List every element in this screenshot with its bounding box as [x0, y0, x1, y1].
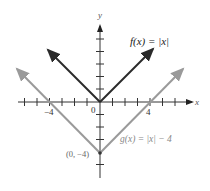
- tick-label-pos4: 4: [146, 107, 151, 117]
- tick-label-neg4: −4: [44, 107, 54, 117]
- vertex-point: [98, 151, 102, 155]
- f-label: f(x) = |x|: [130, 35, 169, 48]
- origin-label: 0: [91, 105, 96, 115]
- x-axis: [18, 98, 192, 106]
- x-axis-label: x: [194, 97, 199, 107]
- g-label: g(x) = |x| − 4: [120, 134, 172, 145]
- graph: y x 0 −4 4 f(x) = |x| g(x) = |x| − 4 (0,…: [0, 0, 210, 191]
- y-axis-label: y: [97, 10, 102, 20]
- vertex-label: (0, −4): [66, 149, 89, 159]
